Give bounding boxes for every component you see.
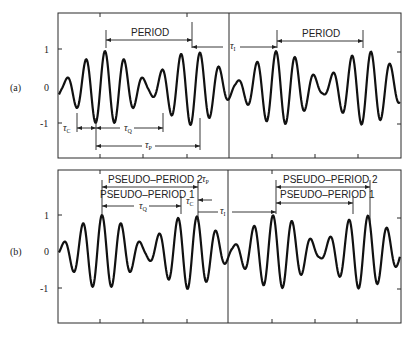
y-tick-0-b: 0 — [44, 246, 49, 257]
y-tick-neg1-b: -1 — [40, 283, 48, 294]
period-label-right: PERIOD — [302, 28, 340, 39]
tau-i-label-b: τI — [220, 205, 226, 217]
y-tick-0: 0 — [44, 82, 49, 93]
pseudo-period-1-label-right: PSEUDO–PERIOD 1 — [280, 189, 375, 200]
tau-q-label-b: τQ — [139, 200, 148, 212]
tau-c-label-a: τC — [63, 122, 71, 134]
panel-a-label: (a) — [10, 82, 21, 94]
tau-q-label-a: τQ — [124, 122, 133, 134]
y-tick-1-b: 1 — [44, 210, 49, 221]
y-tick-1: 1 — [44, 44, 49, 55]
pseudo-period-2-label-left: PSEUDO–PERIOD 2 — [108, 174, 203, 185]
waveform-b — [59, 215, 400, 289]
panel-b: 1 0 -1 (b) PSEUDO–PERIOD 2 PSEUDO–PERIOD… — [10, 170, 401, 323]
pseudo-period-2-label-right: PSEUDO–PERIOD 2 — [283, 174, 378, 185]
diagram-canvas: 1 0 -1 (a) PERIOD τI PERIOD τC — [0, 0, 414, 340]
panel-b-label: (b) — [10, 246, 22, 258]
period-label-left: PERIOD — [131, 27, 169, 38]
panel-a: 1 0 -1 (a) PERIOD τI PERIOD τC — [10, 13, 401, 158]
tau-i-label-a: τI — [230, 40, 236, 52]
pseudo-period-1-label-left: PSEUDO–PERIOD 1 — [100, 189, 195, 200]
tau-p-label-a: τP — [145, 139, 153, 151]
tau-p-label-b: τP — [202, 173, 210, 185]
y-tick-neg1: -1 — [40, 118, 48, 129]
